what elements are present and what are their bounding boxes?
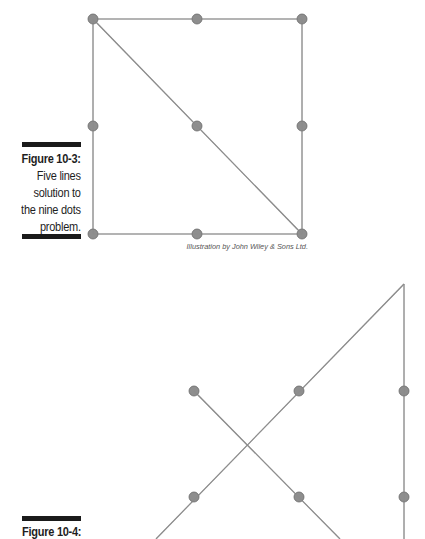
figure-10-3-top-rule bbox=[22, 142, 81, 147]
figure-10-3-caption-line: Five lines bbox=[21, 168, 81, 185]
illustration-credit: Illustration by John Wiley & Sons Ltd. bbox=[187, 242, 308, 251]
figure-10-4-top-rule bbox=[22, 516, 81, 521]
solution-lines-overlay bbox=[93, 19, 302, 234]
solution-line bbox=[93, 19, 302, 234]
figure-10-4-number: Figure 10-4: bbox=[22, 524, 81, 539]
solution-lines-overlay bbox=[156, 284, 404, 539]
solution-line bbox=[194, 391, 340, 539]
figure-10-3-caption-line: solution to bbox=[21, 185, 81, 202]
figure-10-3-label: Figure 10-3: Five lines solution to the … bbox=[21, 151, 81, 236]
figure-10-4-dots bbox=[189, 386, 409, 502]
dot bbox=[294, 386, 304, 396]
figure-10-4-label: Figure 10-4: bbox=[22, 524, 81, 539]
figure-10-3-bottom-rule bbox=[22, 234, 81, 239]
solution-line bbox=[156, 284, 404, 539]
figure-10-3-number: Figure 10-3: bbox=[21, 151, 81, 168]
figure-illustrations bbox=[0, 0, 425, 539]
figure-10-3-caption-line: the nine dots bbox=[21, 202, 81, 219]
